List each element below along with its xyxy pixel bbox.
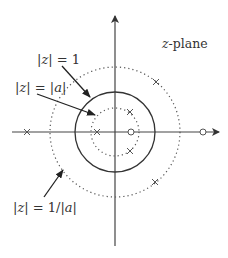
pole-icon <box>152 179 158 185</box>
outer-circle-arrow <box>44 170 63 197</box>
pole-icon <box>127 148 133 154</box>
zero-icon <box>128 129 134 135</box>
z-plane-diagram: z-plane |z| = 1 |z| = |a| |z| = 1/|a| <box>0 0 228 258</box>
z-plane-label: z-plane <box>161 36 208 51</box>
outer-circle-label: |z| = 1/|a| <box>13 200 77 215</box>
zero-icon <box>200 129 206 135</box>
unit-circle-label: |z| = 1 <box>37 52 80 67</box>
inner-circle-label: |z| = |a| <box>15 80 66 95</box>
pole-icon <box>153 79 159 85</box>
